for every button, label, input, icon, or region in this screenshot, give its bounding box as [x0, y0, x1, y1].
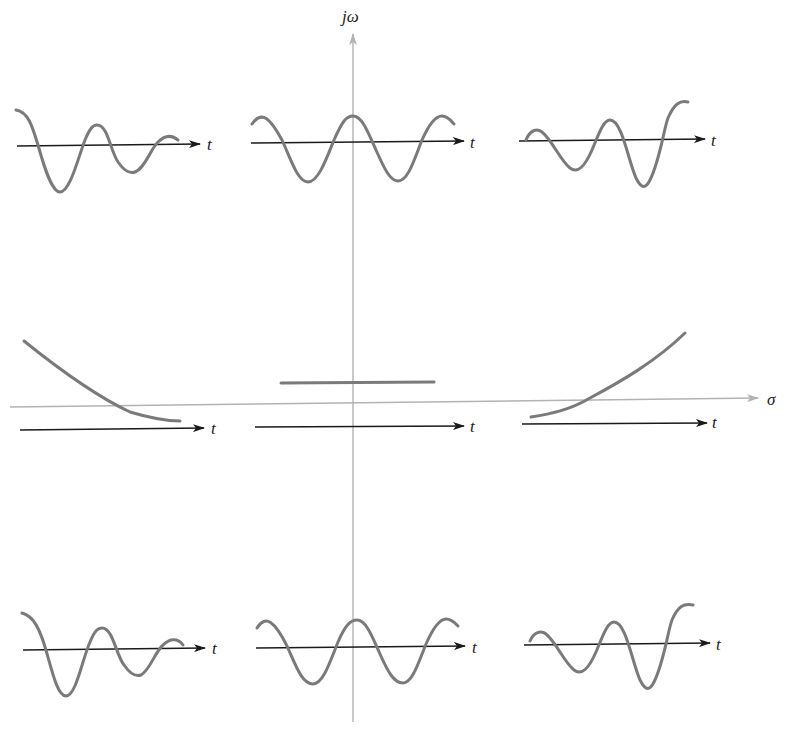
- sustained-oscillation-waveform: [257, 619, 458, 684]
- time-axis-label: t: [211, 419, 217, 438]
- constant-waveform: [281, 382, 434, 383]
- time-axis-label: t: [470, 133, 476, 152]
- decaying-oscillation-waveform: [16, 110, 178, 192]
- growing-oscillation-waveform: [530, 604, 693, 688]
- time-axis-label: t: [207, 135, 213, 154]
- panel-middle-right: t: [522, 333, 718, 432]
- panel-top-right: t: [519, 102, 717, 187]
- time-axis: [524, 643, 710, 645]
- time-axis-label: t: [212, 639, 218, 658]
- panel-top-center: t: [251, 116, 476, 182]
- time-axis-label: t: [470, 417, 476, 436]
- jw-axis-label: jω: [340, 7, 359, 26]
- s-plane-diagram: jω σ t t t t t t t t: [0, 0, 787, 740]
- panel-top-left: t: [16, 110, 213, 192]
- panel-bottom-left: t: [22, 613, 218, 696]
- panel-bottom-center: t: [256, 619, 478, 684]
- time-axis-label: t: [472, 638, 478, 657]
- growing-exponential-waveform: [531, 333, 685, 417]
- time-axis-label: t: [712, 413, 718, 432]
- panel-middle-left: t: [20, 341, 217, 438]
- decaying-exponential-waveform: [24, 341, 180, 421]
- s-plane-axes: jω σ: [10, 7, 776, 722]
- panel-middle-center: t: [255, 382, 476, 436]
- time-axis: [20, 428, 204, 430]
- time-axis-label: t: [716, 635, 722, 654]
- time-axis: [23, 648, 205, 650]
- sigma-axis: [10, 398, 758, 407]
- panel-bottom-right: t: [524, 604, 722, 688]
- time-axis: [522, 423, 707, 424]
- decaying-oscillation-waveform: [22, 613, 183, 696]
- time-axis-label: t: [711, 131, 717, 150]
- growing-oscillation-waveform: [526, 102, 688, 187]
- time-axis: [255, 426, 464, 427]
- time-axis: [17, 144, 200, 146]
- sigma-axis-label: σ: [767, 390, 776, 409]
